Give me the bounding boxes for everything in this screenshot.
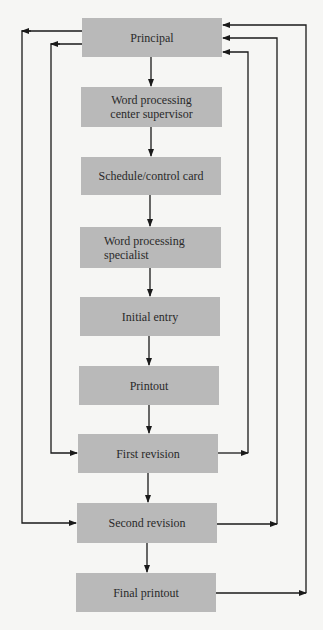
node-first-revision: First revision <box>78 434 218 473</box>
node-label: Schedule/control card <box>99 169 204 183</box>
node-label: Final printout <box>113 586 179 600</box>
node-final-printout: Final printout <box>76 573 216 612</box>
node-label: First revision <box>116 447 180 461</box>
node-second-revision: Second revision <box>77 503 217 543</box>
node-label: Word processing <box>104 234 185 248</box>
node-schedule: Schedule/control card <box>81 157 221 195</box>
node-principal: Principal <box>82 18 222 57</box>
node-label: specialist <box>104 248 149 262</box>
node-label: Word processing <box>111 93 192 107</box>
node-label: center supervisor <box>110 107 192 121</box>
node-printout: Printout <box>79 366 219 405</box>
flowchart: Principal Word processing center supervi… <box>0 0 323 630</box>
node-label: Initial entry <box>122 310 178 324</box>
node-label: Second revision <box>109 516 186 530</box>
node-supervisor: Word processing center supervisor <box>81 87 222 127</box>
node-label: Printout <box>130 379 169 393</box>
node-label: Principal <box>130 31 173 45</box>
node-specialist: Word processing specialist <box>80 227 221 268</box>
node-initial-entry: Initial entry <box>80 297 220 336</box>
